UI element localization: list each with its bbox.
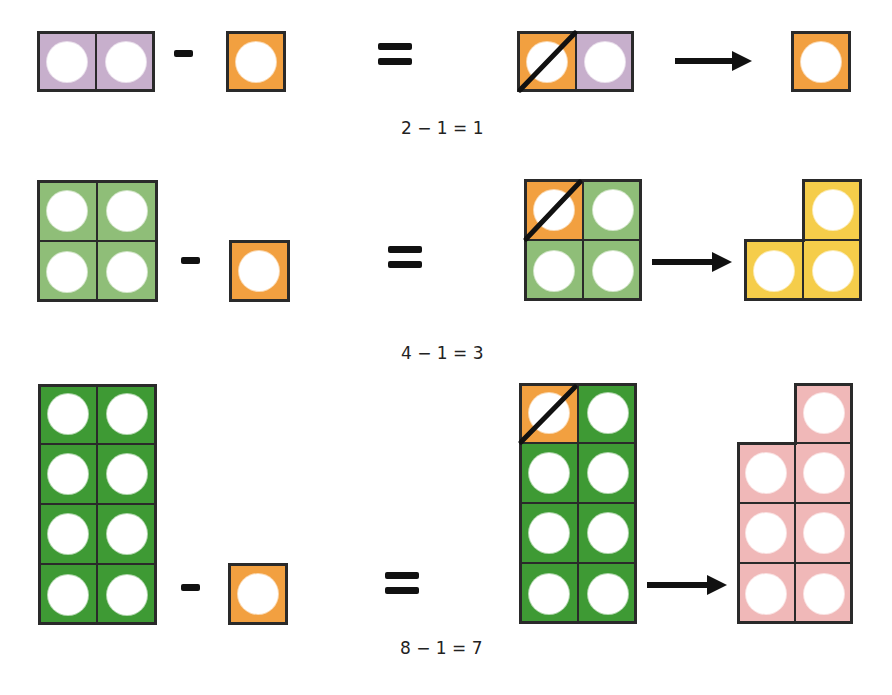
hole (107, 514, 147, 554)
hole (48, 454, 88, 494)
numicon-cell (791, 31, 851, 92)
numicon-cell (578, 503, 637, 563)
numicon-cell (519, 563, 578, 624)
hole (588, 393, 628, 433)
hole (48, 575, 88, 615)
minus-sign (174, 50, 193, 57)
hole (107, 191, 147, 231)
equation-label: 8 − 1 = 7 (400, 638, 483, 658)
hole (529, 453, 569, 493)
hole (588, 453, 628, 493)
hole (47, 42, 87, 82)
hole (48, 394, 88, 434)
numicon-cell (228, 563, 288, 624)
hole (107, 394, 147, 434)
numicon-cell (37, 31, 96, 92)
hole (239, 251, 279, 291)
hole (48, 514, 88, 554)
equals-sign (388, 246, 422, 268)
hole (107, 575, 147, 615)
numicon-cell (97, 180, 157, 241)
equals-sign (385, 572, 419, 594)
cross-out-slash-icon (517, 31, 577, 92)
hole (801, 42, 841, 82)
arrow-right-icon (647, 578, 727, 592)
numicon-cell (524, 240, 583, 301)
hole (529, 513, 569, 553)
numicon-cell (229, 240, 289, 301)
numicon-cell (38, 564, 97, 625)
numicon-cell (576, 31, 634, 92)
numicon-cell (97, 384, 157, 444)
hole (47, 191, 87, 231)
equals-sign (378, 43, 412, 65)
cross-out-slash-icon (519, 383, 579, 444)
numicon-cell (578, 383, 637, 443)
numicon-cell (519, 443, 578, 503)
hole (106, 42, 146, 82)
numicon-cell (578, 563, 637, 624)
numicon-cell (38, 504, 97, 564)
hole (236, 42, 276, 82)
numicon-outline (744, 179, 862, 301)
hole (534, 251, 574, 291)
hole (593, 190, 633, 230)
hole (593, 251, 633, 291)
hole (107, 252, 147, 292)
equation-label: 2 − 1 = 1 (401, 118, 484, 138)
numicon-cell (583, 179, 642, 240)
numicon-cell (38, 444, 97, 504)
numicon-cell (97, 241, 157, 302)
minus-sign (181, 584, 200, 591)
hole (588, 513, 628, 553)
hole (585, 42, 625, 82)
hole (107, 454, 147, 494)
minus-sign (181, 257, 200, 264)
equation-label: 4 − 1 = 3 (401, 343, 484, 363)
numicon-cell (97, 564, 157, 625)
numicon-cell (97, 504, 157, 564)
numicon-cell (38, 384, 97, 444)
numicon-cell (578, 443, 637, 503)
numicon-outline (737, 383, 853, 624)
numicon-cell (37, 241, 97, 302)
hole (529, 574, 569, 614)
numicon-cell (519, 503, 578, 563)
arrow-right-icon (675, 54, 752, 68)
hole (238, 574, 278, 614)
hole (588, 574, 628, 614)
numicon-cell (226, 31, 286, 92)
numicon-cell (96, 31, 155, 92)
numicon-cell (37, 180, 97, 241)
numicon-cell (583, 240, 642, 301)
arrow-right-icon (652, 255, 732, 269)
numicon-cell (97, 444, 157, 504)
cross-out-slash-icon (524, 179, 584, 241)
hole (47, 252, 87, 292)
